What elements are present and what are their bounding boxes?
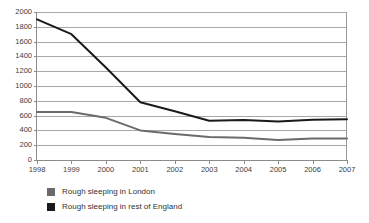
x-tick-mark [313, 161, 314, 164]
x-axis-line [37, 160, 348, 161]
plot-area [37, 12, 347, 160]
legend-item-rest-of-england: Rough sleeping in rest of England [47, 199, 182, 214]
y-tick-mark [34, 86, 37, 87]
x-tick-label: 2001 [122, 166, 158, 174]
legend-label-rest-of-england: Rough sleeping in rest of England [62, 202, 182, 211]
gridline [37, 101, 347, 102]
y-tick-mark [34, 130, 37, 131]
y-tick-label: 2000 [0, 8, 32, 16]
y-tick-label: 1000 [0, 82, 32, 90]
y-tick-label: 200 [0, 141, 32, 149]
y-tick-label: 1400 [0, 52, 32, 60]
gridline [37, 86, 347, 87]
y-tick-mark [34, 27, 37, 28]
x-tick-label: 1998 [19, 166, 55, 174]
gridline [37, 130, 347, 131]
x-tick-label: 2003 [191, 166, 227, 174]
gridline [37, 71, 347, 72]
x-tick-label: 2007 [329, 166, 365, 174]
y-tick-mark [34, 71, 37, 72]
legend-swatch-london [47, 188, 55, 196]
x-tick-label: 2005 [260, 166, 296, 174]
x-tick-mark [278, 161, 279, 164]
x-tick-mark [37, 161, 38, 164]
x-tick-mark [175, 161, 176, 164]
y-tick-mark [34, 101, 37, 102]
x-tick-label: 1999 [53, 166, 89, 174]
y-tick-label: 400 [0, 126, 32, 134]
y-tick-mark [34, 145, 37, 146]
x-tick-mark [347, 161, 348, 164]
plot-right-border [346, 12, 347, 160]
chart-legend: Rough sleeping in London Rough sleeping … [47, 184, 182, 214]
gridline [37, 42, 347, 43]
gridline [37, 145, 347, 146]
legend-swatch-rest-of-england [47, 203, 55, 211]
x-tick-label: 2000 [88, 166, 124, 174]
gridline [37, 116, 347, 117]
y-tick-label: 600 [0, 112, 32, 120]
x-tick-mark [106, 161, 107, 164]
x-tick-mark [244, 161, 245, 164]
x-tick-mark [140, 161, 141, 164]
x-tick-label: 2002 [157, 166, 193, 174]
x-tick-label: 2004 [226, 166, 262, 174]
gridline [37, 27, 347, 28]
y-tick-mark [34, 42, 37, 43]
x-tick-mark [71, 161, 72, 164]
y-tick-label: 0 [0, 156, 32, 164]
y-tick-label: 1600 [0, 38, 32, 46]
gridline [37, 56, 347, 57]
x-tick-label: 2006 [295, 166, 331, 174]
y-tick-mark [34, 12, 37, 13]
y-tick-mark [34, 116, 37, 117]
y-tick-label: 1200 [0, 67, 32, 75]
y-tick-label: 800 [0, 97, 32, 105]
legend-label-london: Rough sleeping in London [62, 187, 155, 196]
x-tick-mark [209, 161, 210, 164]
y-tick-mark [34, 56, 37, 57]
legend-item-london: Rough sleeping in London [47, 184, 182, 199]
gridline [37, 12, 347, 13]
y-tick-label: 1800 [0, 23, 32, 31]
line-chart: 0200400600800100012001400160018002000 19… [0, 0, 369, 223]
